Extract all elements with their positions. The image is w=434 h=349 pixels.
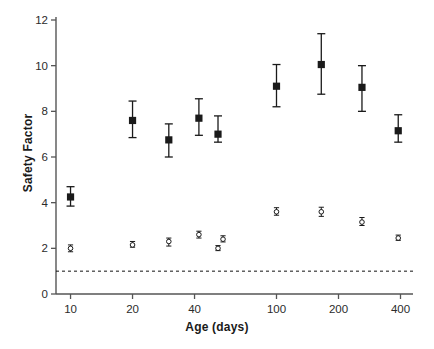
data-point-open-circle	[360, 220, 365, 225]
data-point-filled-square	[395, 127, 402, 134]
data-point-filled-square	[214, 131, 221, 138]
data-point-open-circle	[197, 232, 202, 237]
x-tick-label: 10	[64, 303, 77, 315]
data-point-open-circle	[396, 236, 401, 241]
y-tick-label: 2	[42, 242, 48, 254]
y-tick-label: 4	[42, 197, 49, 209]
data-point-open-circle	[221, 237, 226, 242]
data-point-open-circle	[274, 210, 279, 215]
y-tick-label: 12	[35, 14, 48, 26]
data-point-open-circle	[216, 246, 221, 251]
plot-area: 024681012102040100200400	[0, 0, 434, 349]
data-point-open-circle	[319, 210, 324, 215]
y-tick-label: 6	[42, 151, 48, 163]
y-tick-label: 0	[42, 288, 48, 300]
data-point-open-circle	[68, 246, 73, 251]
data-point-filled-square	[273, 83, 280, 90]
series-filled-square	[67, 34, 403, 206]
data-point-filled-square	[165, 136, 172, 143]
x-axis-label: Age (days)	[0, 320, 434, 334]
x-tick-label: 100	[267, 303, 286, 315]
x-tick-label: 400	[391, 303, 410, 315]
x-tick-label: 20	[126, 303, 139, 315]
y-tick-label: 8	[42, 105, 48, 117]
data-point-filled-square	[195, 115, 202, 122]
data-point-filled-square	[358, 84, 365, 91]
data-point-filled-square	[318, 61, 325, 68]
x-tick-label: 200	[329, 303, 348, 315]
data-point-open-circle	[130, 243, 135, 248]
data-point-filled-square	[129, 117, 136, 124]
x-tick-label: 40	[188, 303, 201, 315]
data-point-open-circle	[167, 239, 172, 244]
figure-scatter-safety-factor: 024681012102040100200400 Safety Factor A…	[0, 0, 434, 349]
y-axis-label: Safety Factor	[21, 73, 35, 233]
series-open-circle	[68, 207, 401, 252]
data-point-filled-square	[67, 193, 74, 200]
y-tick-label: 10	[35, 60, 48, 72]
